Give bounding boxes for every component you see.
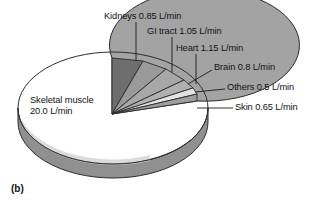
slice-label-skeletal-muscle-line2: 20.0 L/min xyxy=(30,106,72,116)
slice-label-skeletal-muscle: Skeletal muscle 20.0 L/min xyxy=(30,95,125,117)
panel-caption: (b) xyxy=(11,183,24,194)
slice-label-skeletal-muscle-line1: Skeletal muscle xyxy=(30,95,94,105)
slice-label-skin: Skin 0.65 L/min xyxy=(235,102,298,113)
slice-label-brain: Brain 0.8 L/min xyxy=(214,62,275,73)
pie-chart-figure: Kidneys 0.85 L/min GI tract 1.05 L/min H… xyxy=(0,0,316,209)
slice-label-kidneys: Kidneys 0.85 L/min xyxy=(104,11,181,22)
slice-label-others: Others 0.5 L/min xyxy=(227,82,294,93)
pie-3d-side-wall xyxy=(18,108,208,178)
slice-label-gi-tract: GI tract 1.05 L/min xyxy=(147,26,222,37)
slice-label-heart: Heart 1.15 L/min xyxy=(176,43,243,54)
